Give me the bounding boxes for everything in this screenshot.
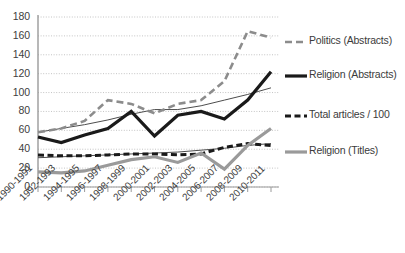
- data-series-layer: [38, 31, 271, 173]
- legend-label: Total articles / 100: [309, 108, 390, 120]
- legend-swatch-dashed-gray-icon: [285, 34, 307, 46]
- y-tick-label: 60: [4, 124, 30, 134]
- y-tick-label: 140: [4, 49, 30, 59]
- y-tick-label: 100: [4, 87, 30, 97]
- legend-label: Religion (Titles): [309, 144, 378, 156]
- legend-swatch-solid-black-icon: [285, 68, 307, 80]
- y-tick-label: 160: [4, 30, 30, 40]
- series-line-total-articles-100: [38, 144, 271, 156]
- legend-item: Politics (Abstracts): [285, 33, 392, 47]
- axis-lines: [38, 15, 279, 187]
- y-tick-label: 40: [4, 143, 30, 153]
- legend-swatch-solid-gray-icon: [285, 144, 307, 156]
- y-tick-label: 180: [4, 11, 30, 21]
- legend-label: Religion (Abstracts): [309, 68, 397, 80]
- chart-container: 180160140120100806040200 1990-19911992-1…: [0, 0, 405, 253]
- legend-item: Total articles / 100: [285, 107, 390, 121]
- legend-swatch-dashed-black-icon: [285, 108, 307, 120]
- series-line-religion-abstracts: [38, 72, 271, 143]
- legend-item: Religion (Titles): [285, 143, 378, 157]
- legend-item: Religion (Abstracts): [285, 67, 397, 81]
- y-tick-label: 80: [4, 105, 30, 115]
- y-tick-label: 120: [4, 68, 30, 78]
- legend-label: Politics (Abstracts): [309, 34, 392, 46]
- series-line-politics-abstracts: [38, 31, 271, 132]
